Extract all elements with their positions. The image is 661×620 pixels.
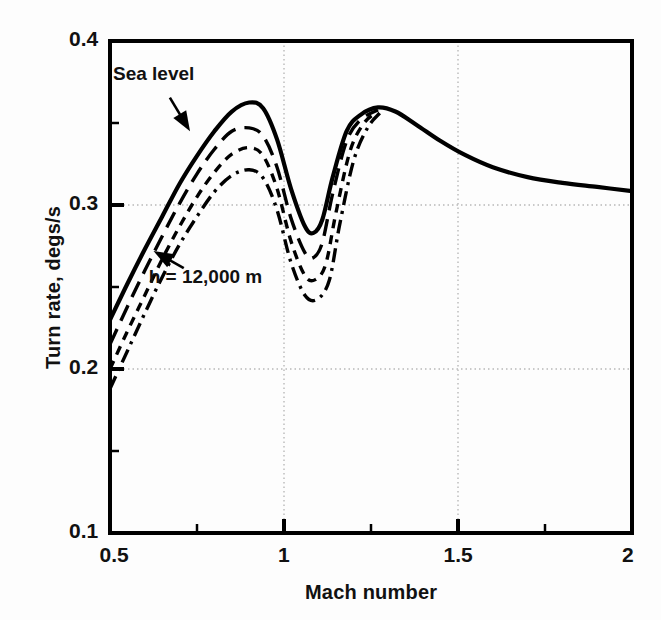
y-tick-label-0.1: 0.1 xyxy=(69,519,98,543)
minor-ticks xyxy=(110,123,545,533)
sea-level-arrow-shaft xyxy=(170,98,181,117)
annotation-sea-level: Sea level xyxy=(113,63,194,85)
y-axis-title: Turn rate, degs/s xyxy=(42,205,65,368)
altitude-arrow-head xyxy=(154,251,175,267)
sea-level-arrow-head xyxy=(173,110,190,131)
data-series xyxy=(110,102,632,388)
x-tick-label-1.5: 1.5 xyxy=(444,543,473,567)
x-axis-title: Mach number xyxy=(305,581,437,604)
x-tick-label-2: 2 xyxy=(622,543,634,567)
y-tick-label-0.2: 0.2 xyxy=(69,355,98,379)
y-tick-label-0.3: 0.3 xyxy=(69,191,98,215)
annotation-altitude: h = 12,000 m xyxy=(149,266,263,288)
chart-figure: 0.4 0.3 0.2 0.1 0.5 1 1.5 2 Turn rate, d… xyxy=(0,0,661,620)
y-tick-label-0.4: 0.4 xyxy=(69,27,98,51)
x-tick-label-0.5: 0.5 xyxy=(100,543,129,567)
x-tick-label-1: 1 xyxy=(278,543,290,567)
turn-rate-vs-mach-chart xyxy=(0,0,661,620)
